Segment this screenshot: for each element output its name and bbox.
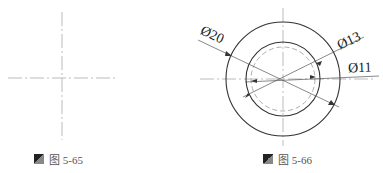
caption-text: 图 5-65 <box>49 151 83 167</box>
caption-text: 图 5-66 <box>278 151 312 167</box>
fig-5-66-drawing <box>198 8 379 146</box>
dim-label-hidden: Ø11 <box>348 60 372 77</box>
drawing-canvas <box>0 0 383 173</box>
caption-fig-5-65: 图 5-65 <box>34 151 83 167</box>
figure-marker-icon <box>34 154 44 164</box>
fig-5-65-crosshair <box>8 12 117 140</box>
caption-fig-5-66: 图 5-66 <box>263 151 312 167</box>
figure-marker-icon <box>263 154 273 164</box>
dim-line-outer <box>198 40 339 107</box>
